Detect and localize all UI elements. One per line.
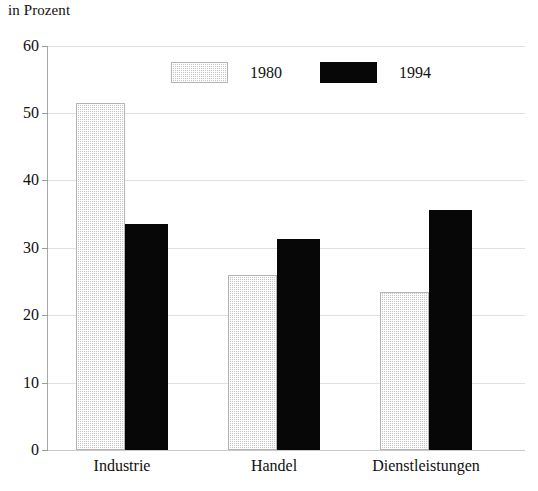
legend-item-1994: 1994	[320, 62, 431, 83]
bar-dienstleistungen-1994	[429, 210, 472, 450]
legend-item-1980: 1980	[171, 62, 282, 83]
y-tick-mark-0	[42, 450, 48, 451]
legend-swatch-1994-icon	[320, 62, 377, 83]
x-axis-line	[47, 450, 525, 451]
legend-swatch-1980-icon	[171, 62, 228, 83]
bar-chart: in Prozent 60 50 40 30 20 10 0 Industrie…	[0, 0, 538, 491]
x-category-label-industrie: Industrie	[94, 457, 151, 475]
bar-dienstleistungen-1980	[380, 292, 429, 450]
bar-handel-1994	[277, 239, 320, 450]
x-category-label-dienstleistungen: Dienstleistungen	[372, 457, 480, 475]
y-tick-label-20: 20	[23, 307, 39, 323]
y-tick-label-0: 0	[31, 442, 39, 458]
y-tick-label-50: 50	[23, 105, 39, 121]
bar-handel-1980	[228, 275, 277, 450]
y-tick-label-60: 60	[23, 38, 39, 54]
y-axis-unit-label: in Prozent	[8, 2, 70, 19]
chart-legend: 1980 1994	[171, 62, 431, 83]
legend-label-1980: 1980	[250, 64, 282, 82]
y-tick-label-10: 10	[23, 375, 39, 391]
legend-label-1994: 1994	[399, 64, 431, 82]
x-category-label-handel: Handel	[251, 457, 297, 475]
plot-area	[47, 46, 525, 450]
bar-industrie-1980	[76, 103, 125, 450]
bar-industrie-1994	[125, 224, 168, 450]
y-tick-label-30: 30	[23, 240, 39, 256]
y-tick-label-40: 40	[23, 172, 39, 188]
